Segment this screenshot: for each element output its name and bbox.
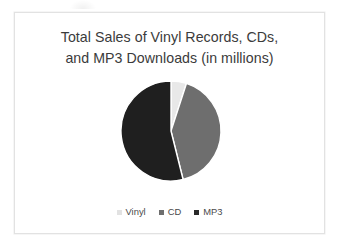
page-title-line-1: Total Sales of Vinyl Records, CDs,	[29, 27, 310, 48]
page-title-line-2: and MP3 Downloads (in millions)	[29, 48, 310, 69]
legend-item-cd[interactable]: CD	[159, 207, 182, 217]
pie-slice-group	[120, 81, 220, 181]
legend-swatch-vinyl	[117, 210, 122, 215]
legend-item-mp3[interactable]: MP3	[194, 207, 222, 217]
legend-label-mp3: MP3	[203, 207, 222, 217]
legend-label-vinyl: Vinyl	[126, 207, 146, 217]
legend-item-vinyl[interactable]: Vinyl	[117, 207, 146, 217]
scan-artifact	[70, 0, 96, 9]
pie-chart-svg	[119, 79, 223, 183]
legend-swatch-mp3	[194, 210, 199, 215]
chart-legend: Vinyl CD MP3	[15, 207, 324, 217]
legend-label-cd: CD	[168, 207, 182, 217]
slide-frame: Total Sales of Vinyl Records, CDs, and M…	[14, 12, 325, 234]
page-title: Total Sales of Vinyl Records, CDs, and M…	[15, 27, 324, 69]
pie-chart	[15, 79, 326, 187]
legend-swatch-cd	[159, 210, 164, 215]
